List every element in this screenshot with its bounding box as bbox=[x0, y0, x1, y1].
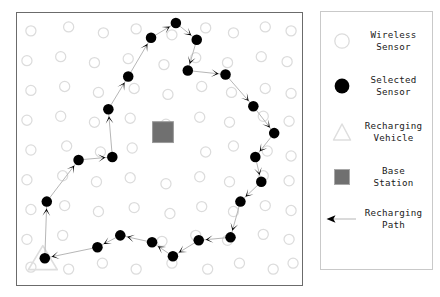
wireless-sensor bbox=[123, 54, 133, 64]
selected-sensor bbox=[248, 101, 259, 112]
wireless-sensor bbox=[224, 177, 234, 187]
wireless-sensor bbox=[284, 116, 294, 126]
wireless-sensor bbox=[91, 177, 101, 187]
wireless-sensor bbox=[197, 202, 207, 212]
wireless-sensor bbox=[258, 229, 268, 239]
selected-sensor bbox=[123, 71, 134, 82]
wireless-sensor bbox=[159, 60, 169, 70]
selected-sensor bbox=[220, 69, 231, 80]
legend-label-wireless-sensor: Wireless Sensor bbox=[359, 29, 434, 52]
wireless-sensor bbox=[157, 236, 167, 246]
wireless-sensor bbox=[161, 179, 171, 189]
selected-sensor bbox=[103, 104, 114, 115]
selected-sensor bbox=[250, 152, 261, 163]
wireless-sensor bbox=[93, 87, 103, 97]
legend-label-recharging-vehicle: Recharging Vehicle bbox=[359, 120, 434, 143]
wireless-sensor bbox=[234, 258, 244, 268]
wireless-sensor bbox=[129, 83, 139, 93]
wireless-sensor bbox=[125, 113, 135, 123]
selected-sensor bbox=[40, 253, 51, 264]
wireless-sensor bbox=[201, 23, 211, 33]
recharging-path-arrow bbox=[67, 165, 75, 173]
wireless-sensor bbox=[167, 30, 177, 40]
wireless-sensor-icon bbox=[321, 24, 359, 58]
wireless-sensor bbox=[268, 264, 278, 274]
recharging-path-segment bbox=[188, 71, 226, 75]
recharging-path-segment bbox=[226, 75, 254, 107]
selected-sensor bbox=[146, 33, 157, 44]
recharging-path-segment bbox=[108, 77, 128, 110]
selected-sensor bbox=[256, 176, 267, 187]
wireless-sensor bbox=[195, 112, 205, 122]
legend-label-recharging-path: Recharging Path bbox=[359, 207, 434, 230]
wireless-sensor bbox=[98, 28, 108, 38]
wireless-sensor bbox=[131, 264, 141, 274]
wireless-sensor bbox=[282, 57, 292, 67]
selected-sensor bbox=[171, 18, 182, 29]
wireless-sensor bbox=[286, 26, 296, 36]
legend-label-selected-sensor: Selected Sensor bbox=[359, 74, 434, 97]
wireless-sensor bbox=[22, 115, 32, 125]
wireless-sensor bbox=[131, 24, 141, 34]
wireless-sensor bbox=[125, 173, 135, 183]
legend-item-recharging-vehicle: Recharging Vehicle bbox=[321, 115, 434, 149]
wireless-sensor bbox=[60, 201, 70, 211]
wireless-sensor bbox=[284, 234, 294, 244]
figure-root: Wireless Sensor Selected Sensor Rechargi… bbox=[0, 0, 440, 297]
wireless-sensor bbox=[62, 141, 72, 151]
wireless-sensor bbox=[89, 58, 99, 68]
legend-item-wireless-sensor: Wireless Sensor bbox=[321, 24, 434, 58]
wireless-sensor bbox=[224, 117, 234, 127]
wireless-sensor bbox=[226, 87, 236, 97]
wireless-sensor bbox=[286, 205, 296, 215]
wireless-sensor bbox=[262, 146, 272, 156]
selected-sensor bbox=[168, 251, 179, 262]
recharging-path-arrow bbox=[162, 27, 170, 34]
wireless-sensor bbox=[203, 264, 213, 274]
recharging-path-arrow bbox=[140, 44, 147, 52]
wireless-sensor bbox=[288, 258, 298, 268]
selected-sensor bbox=[42, 196, 53, 207]
wireless-sensor bbox=[201, 147, 211, 157]
wireless-sensor bbox=[26, 85, 36, 95]
selected-sensor bbox=[107, 152, 118, 163]
base-station-icon bbox=[321, 160, 359, 194]
wireless-sensor bbox=[60, 81, 70, 91]
wireless-sensor bbox=[58, 230, 68, 240]
selected-sensor bbox=[193, 235, 204, 246]
legend-item-recharging-path: Recharging Path bbox=[321, 202, 434, 236]
wireless-sensor bbox=[56, 52, 66, 62]
wireless-sensor bbox=[22, 175, 32, 185]
wireless-sensor bbox=[26, 145, 36, 155]
wireless-sensor bbox=[260, 201, 270, 211]
wireless-sensor bbox=[64, 22, 74, 32]
wireless-sensor bbox=[260, 22, 270, 32]
recharging-path-icon bbox=[321, 202, 359, 236]
selected-sensor bbox=[269, 128, 280, 139]
wireless-sensor bbox=[89, 117, 99, 127]
plot-panel bbox=[16, 12, 303, 286]
recharging-path-arrow bbox=[158, 246, 166, 253]
selected-sensor-icon bbox=[321, 69, 359, 103]
wireless-sensor bbox=[64, 264, 74, 274]
legend-panel: Wireless Sensor Selected Sensor Rechargi… bbox=[320, 11, 433, 270]
recharging-path-arrow bbox=[117, 82, 124, 90]
selected-sensor bbox=[92, 242, 103, 253]
wireless-sensor bbox=[228, 141, 238, 151]
wireless-sensor bbox=[228, 28, 238, 38]
wireless-sensor bbox=[256, 52, 266, 62]
wireless-sensor bbox=[26, 204, 36, 214]
wireless-sensor bbox=[127, 143, 137, 153]
wireless-sensor bbox=[93, 206, 103, 216]
recharging-path-segment bbox=[128, 38, 151, 77]
wireless-sensor bbox=[284, 176, 294, 186]
network-plot-svg bbox=[17, 13, 302, 285]
wireless-sensor bbox=[26, 26, 36, 36]
selected-sensor bbox=[115, 230, 126, 241]
wireless-sensor bbox=[56, 111, 66, 121]
selected-sensor bbox=[191, 35, 202, 46]
legend-label-base-station: Base Station bbox=[359, 165, 434, 188]
wireless-sensor bbox=[260, 83, 270, 93]
base-station-layer bbox=[153, 122, 174, 143]
wireless-sensor bbox=[222, 58, 232, 68]
